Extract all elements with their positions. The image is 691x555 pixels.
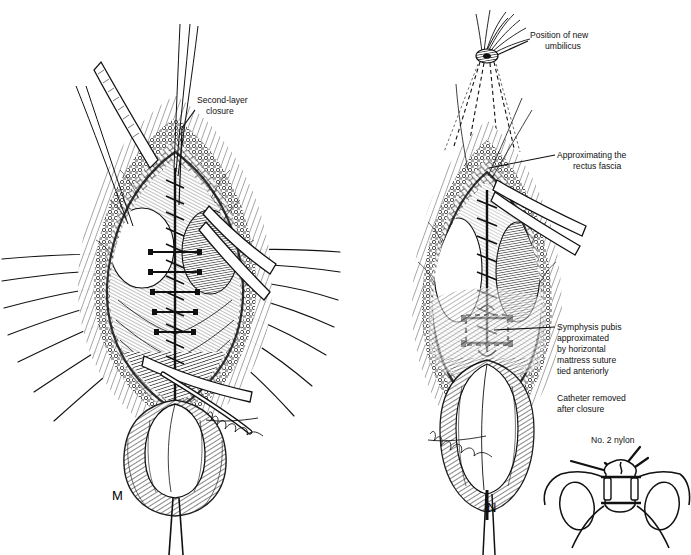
label-line-1: Catheter removed	[557, 393, 626, 403]
label-line-1: Position of new	[530, 30, 589, 40]
label-line-1: No. 2 nylon	[591, 435, 635, 445]
label-no-2-nylon: No. 2 nylon	[591, 435, 635, 445]
figure-letter-n: N	[487, 500, 496, 515]
label-line-5: tied anteriorly	[557, 366, 609, 376]
label-line-2: after closure	[557, 404, 605, 414]
surgical-illustration-svg: M Second-layer closure	[0, 0, 691, 555]
label-line-1: Symphysis pubis	[557, 322, 621, 332]
illustration-page: M Second-layer closure	[0, 0, 691, 555]
label-line-1: Approximating the	[557, 150, 626, 160]
label-line-2: closure	[206, 106, 234, 116]
label-line-2: approximated	[557, 333, 609, 343]
label-line-2: rectus fascia	[573, 161, 621, 171]
label-line-3: by horizontal	[557, 344, 606, 354]
figure-letter-m: M	[112, 488, 123, 503]
label-line-2: umbilicus	[545, 41, 581, 51]
label-line-1: Second-layer	[197, 95, 248, 105]
label-line-4: mattress suture	[557, 355, 616, 365]
